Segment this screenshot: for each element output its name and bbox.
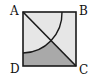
square-diagram: A B D C bbox=[0, 0, 91, 76]
label-a: A bbox=[9, 4, 19, 18]
label-c: C bbox=[79, 63, 88, 76]
label-b: B bbox=[79, 4, 88, 18]
label-d: D bbox=[10, 62, 20, 76]
